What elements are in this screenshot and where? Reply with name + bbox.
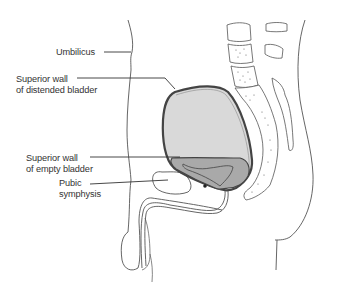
label-line-1: Pubic	[59, 178, 101, 189]
vertebra-l5	[231, 66, 258, 87]
perineal-line	[150, 254, 152, 282]
lumbar-vertebrae	[227, 23, 258, 88]
vertebra-l3	[227, 23, 251, 42]
label-pubic-symphysis: Pubic symphysis	[59, 178, 101, 199]
label-line-2: of distended bladder	[16, 85, 97, 96]
label-line-1: Superior wall	[26, 153, 93, 164]
anatomy-drawing	[0, 0, 342, 293]
bladder-neck	[203, 184, 207, 188]
label-line-1: Superior wall	[16, 74, 97, 85]
urethra-inner	[145, 191, 228, 266]
vertebra-l4	[228, 44, 253, 64]
label-line-2: symphysis	[59, 189, 101, 200]
external-genitalia	[121, 222, 140, 270]
natal-cleft	[276, 240, 277, 270]
label-line-2: of empty bladder	[26, 164, 93, 175]
urethra-outer	[141, 190, 225, 268]
pelvis-diagram: Umbilicus Superior wall of distended bla…	[0, 0, 342, 293]
label-superior-wall-distended: Superior wall of distended bladder	[16, 74, 97, 95]
label-superior-wall-empty: Superior wall of empty bladder	[26, 153, 93, 174]
label-umbilicus: Umbilicus	[56, 47, 95, 58]
spinous-processes	[265, 23, 287, 59]
label-umbilicus-text: Umbilicus	[56, 47, 95, 58]
